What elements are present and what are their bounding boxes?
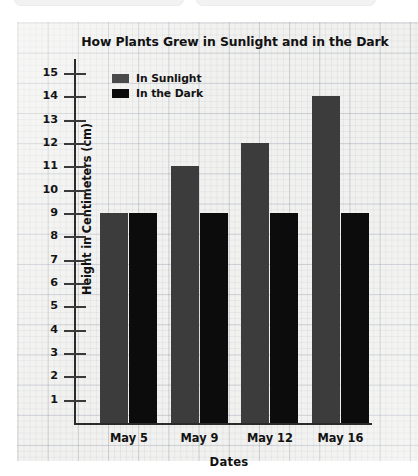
bar-sunlight[interactable] bbox=[100, 213, 128, 423]
bar-dark[interactable] bbox=[341, 213, 369, 423]
partial-ui-panel-left[interactable] bbox=[14, 0, 184, 6]
x-tick-label: May 16 bbox=[299, 431, 383, 445]
y-tick-label: 1 bbox=[30, 394, 58, 405]
y-tick-label: 8 bbox=[30, 230, 58, 241]
x-axis-line bbox=[74, 423, 372, 425]
y-tick-mark bbox=[64, 353, 86, 355]
y-tick-mark bbox=[64, 330, 86, 332]
y-tick-mark bbox=[64, 236, 86, 238]
y-tick-mark bbox=[64, 73, 86, 75]
y-tick-label: 11 bbox=[30, 160, 58, 171]
y-tick-label: 2 bbox=[30, 370, 58, 381]
y-tick-label: 14 bbox=[30, 90, 58, 101]
y-tick-mark bbox=[64, 190, 86, 192]
y-tick-mark bbox=[64, 120, 86, 122]
partial-ui-panel-right[interactable] bbox=[196, 0, 376, 6]
bar-sunlight[interactable] bbox=[312, 96, 340, 423]
y-tick-label: 12 bbox=[30, 137, 58, 148]
chart-title: How Plants Grew in Sunlight and in the D… bbox=[60, 34, 410, 49]
bar-group bbox=[312, 61, 369, 423]
y-tick-label: 7 bbox=[30, 254, 58, 265]
y-tick-mark bbox=[64, 283, 86, 285]
y-tick-mark bbox=[64, 143, 86, 145]
screenshot-root: How Plants Grew in Sunlight and in the D… bbox=[0, 0, 418, 476]
bar-group bbox=[171, 61, 228, 423]
y-tick-mark bbox=[64, 260, 86, 262]
bar-sunlight[interactable] bbox=[171, 166, 199, 423]
y-tick-label: 9 bbox=[30, 207, 58, 218]
bar-group bbox=[100, 61, 157, 423]
y-tick-label: 6 bbox=[30, 277, 58, 288]
y-axis-title: Height in Centimeters (cm) bbox=[80, 123, 94, 295]
y-axis-line bbox=[74, 59, 76, 425]
plot-area: Height in Centimeters (cm) 1514131211109… bbox=[88, 63, 370, 425]
y-tick-label: 3 bbox=[30, 347, 58, 358]
y-tick-mark bbox=[64, 306, 86, 308]
y-tick-label: 4 bbox=[30, 324, 58, 335]
bar-dark[interactable] bbox=[200, 213, 228, 423]
y-tick-label: 10 bbox=[30, 184, 58, 195]
y-tick-mark bbox=[64, 96, 86, 98]
y-tick-mark bbox=[64, 376, 86, 378]
x-axis-title: Dates bbox=[88, 455, 370, 469]
bar-sunlight[interactable] bbox=[241, 143, 269, 423]
y-tick-label: 15 bbox=[30, 67, 58, 78]
bar-dark[interactable] bbox=[129, 213, 157, 423]
y-tick-mark bbox=[64, 400, 86, 402]
bar-group bbox=[241, 61, 298, 423]
y-tick-mark bbox=[64, 166, 86, 168]
y-tick-label: 13 bbox=[30, 114, 58, 125]
top-chrome-strip bbox=[0, 0, 418, 16]
y-tick-label: 5 bbox=[30, 300, 58, 311]
bar-dark[interactable] bbox=[270, 213, 298, 423]
y-tick-mark bbox=[64, 213, 86, 215]
